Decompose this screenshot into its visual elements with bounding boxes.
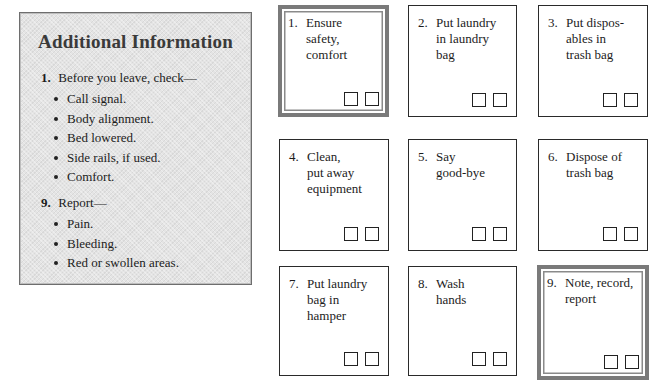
list-item: Call signal.	[54, 89, 197, 109]
list-item: Bed lowered.	[54, 128, 197, 148]
step-card-1: 1. Ensure safety, comfort	[278, 5, 389, 117]
bullet-icon	[54, 175, 58, 179]
step-card-7: 7. Put laundry bag in hamper	[279, 266, 389, 376]
step-number: 5.	[418, 149, 436, 181]
step-label: Put dispos- ables in trash bag	[566, 15, 641, 63]
bullet-icon	[54, 242, 58, 246]
step-label: Say good-bye	[436, 149, 510, 181]
step-number: 2.	[418, 15, 436, 63]
checkbox[interactable]	[603, 227, 617, 241]
step-label: Clean, put away equipment	[307, 149, 382, 197]
checkbox[interactable]	[604, 355, 618, 369]
step-card-5: 5. Say good-bye	[408, 139, 517, 251]
bullet-icon	[54, 97, 58, 101]
step-card-3: 3. Put dispos- ables in trash bag	[538, 5, 648, 117]
section-before-leave: 1. Before you leave, check— Call signal.…	[41, 69, 197, 187]
panel-title: Additional Information	[38, 31, 233, 53]
bullet-icon	[54, 261, 58, 265]
step-number: 4.	[289, 149, 307, 197]
step-card-2: 2. Put laundry in laundry bag	[408, 5, 517, 117]
list-item: Body alignment.	[54, 109, 197, 129]
checkbox[interactable]	[365, 227, 379, 241]
checkbox[interactable]	[624, 227, 638, 241]
bullet-icon	[54, 136, 58, 140]
check-list: Call signal. Body alignment. Bed lowered…	[41, 89, 197, 187]
checkbox[interactable]	[344, 92, 358, 106]
step-number: 7.	[289, 276, 307, 324]
step-label: Note, record, report	[565, 275, 639, 307]
checkbox[interactable]	[625, 355, 639, 369]
step-number: 1.	[288, 15, 306, 63]
step-number: 8.	[418, 276, 436, 308]
list-item: Comfort.	[54, 167, 197, 187]
step-card-6: 6. Dispose of trash bag	[538, 139, 648, 251]
checkbox[interactable]	[365, 92, 379, 106]
list-item: Pain.	[54, 214, 179, 234]
checkbox[interactable]	[344, 227, 358, 241]
list-item: Bleeding.	[54, 234, 179, 254]
step-card-9: 9. Note, record, report	[537, 265, 649, 380]
checkbox[interactable]	[493, 227, 507, 241]
checkbox[interactable]	[472, 352, 486, 366]
checkbox[interactable]	[365, 352, 379, 366]
checkbox[interactable]	[344, 352, 358, 366]
section-report: 9. Report— Pain. Bleeding. Red or swolle…	[41, 194, 179, 273]
step-card-8: 8. Wash hands	[408, 266, 517, 376]
bullet-icon	[54, 222, 58, 226]
step-number: 3.	[548, 15, 566, 63]
step-label: Put laundry in laundry bag	[436, 15, 510, 63]
section-heading: Before you leave, check—	[58, 70, 197, 85]
section-number: 1.	[41, 69, 55, 86]
step-label: Ensure safety, comfort	[306, 15, 379, 63]
step-label: Put laundry bag in hamper	[307, 276, 382, 324]
additional-information-panel: Additional Information 1. Before you lea…	[19, 12, 252, 285]
bullet-icon	[54, 117, 58, 121]
checkbox[interactable]	[603, 93, 617, 107]
step-label: Dispose of trash bag	[566, 149, 641, 181]
checkbox[interactable]	[472, 227, 486, 241]
step-card-4: 4. Clean, put away equipment	[279, 139, 389, 251]
report-list: Pain. Bleeding. Red or swollen areas.	[41, 214, 179, 273]
step-label: Wash hands	[436, 276, 510, 308]
checkbox[interactable]	[472, 93, 486, 107]
list-item: Side rails, if used.	[54, 148, 197, 168]
section-number: 9.	[41, 194, 55, 211]
checkbox[interactable]	[493, 352, 507, 366]
step-number: 6.	[548, 149, 566, 181]
step-number: 9.	[547, 275, 565, 307]
list-item: Red or swollen areas.	[54, 253, 179, 273]
section-heading: Report—	[58, 195, 106, 210]
checkbox[interactable]	[624, 93, 638, 107]
bullet-icon	[54, 156, 58, 160]
checkbox[interactable]	[493, 93, 507, 107]
